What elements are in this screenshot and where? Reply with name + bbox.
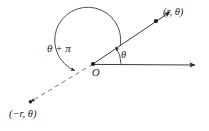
point-negative-marker (29, 100, 33, 104)
origin-point-marker (91, 62, 95, 66)
polar-coordinates-diagram: (r, θ) (−r, θ) θ + π θ O (0, 0, 209, 131)
theta-plus-pi-arc (55, 7, 121, 70)
polar-axis-ray (93, 64, 195, 65)
label-angle-theta-plus-pi: θ + π (47, 43, 71, 54)
label-point-positive: (r, θ) (163, 7, 183, 18)
label-point-negative: (−r, θ) (9, 109, 36, 120)
label-angle-theta: θ (121, 50, 126, 61)
label-origin: O (92, 68, 100, 79)
point-positive-marker (154, 19, 158, 23)
opposite-ray-dashed (31, 64, 93, 102)
terminal-ray (93, 12, 170, 64)
